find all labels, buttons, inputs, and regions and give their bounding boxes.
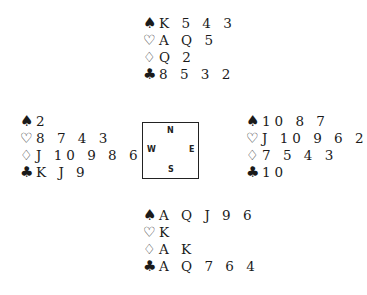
spade-icon: ♠ [20, 113, 36, 130]
diamond-icon: ♢ [20, 147, 36, 164]
north-hand: ♠ K 5 4 3 ♡ A Q 5 ♢ Q 2 ♣ 8 5 3 2 [143, 15, 236, 83]
club-icon: ♣ [246, 164, 262, 181]
north-diamonds-cards: Q 2 [159, 49, 195, 66]
west-spades-row: ♠ 2 [20, 113, 142, 130]
north-hearts-row: ♡ A Q 5 [143, 32, 236, 49]
east-spades-row: ♠ 10 8 7 [246, 113, 367, 130]
diamond-icon: ♢ [246, 147, 262, 164]
south-clubs-cards: A Q 7 6 4 [159, 258, 259, 275]
south-hearts-row: ♡ K [143, 224, 259, 241]
club-icon: ♣ [143, 258, 159, 275]
club-icon: ♣ [143, 66, 159, 83]
spade-icon: ♠ [246, 113, 262, 130]
south-hand: ♠ A Q J 9 6 ♡ K ♢ A K ♣ A Q 7 6 4 [143, 207, 259, 275]
heart-icon: ♡ [143, 224, 159, 241]
south-spades-cards: A Q J 9 6 [159, 207, 256, 224]
compass-west-label: W [147, 145, 156, 154]
west-clubs-cards: K J 9 [36, 164, 89, 181]
south-diamonds-cards: A K [159, 241, 195, 258]
east-diamonds-cards: 7 5 4 3 [262, 147, 337, 164]
south-spades-row: ♠ A Q J 9 6 [143, 207, 259, 224]
east-clubs-cards: 10 [262, 164, 287, 181]
heart-icon: ♡ [20, 130, 36, 147]
east-diamonds-row: ♢ 7 5 4 3 [246, 147, 367, 164]
west-clubs-row: ♣ K J 9 [20, 164, 142, 181]
north-clubs-cards: 8 5 3 2 [159, 66, 234, 83]
east-clubs-row: ♣ 10 [246, 164, 367, 181]
west-diamonds-row: ♢ J 10 9 8 6 [20, 147, 142, 164]
west-hearts-row: ♡ 8 7 4 3 [20, 130, 142, 147]
east-hearts-row: ♡ J 10 9 6 2 [246, 130, 367, 147]
compass-north-label: N [167, 126, 174, 135]
heart-icon: ♡ [143, 32, 159, 49]
spade-icon: ♠ [143, 207, 159, 224]
heart-icon: ♡ [246, 130, 262, 147]
club-icon: ♣ [20, 164, 36, 181]
north-clubs-row: ♣ 8 5 3 2 [143, 66, 236, 83]
east-spades-cards: 10 8 7 [262, 113, 329, 130]
east-hand: ♠ 10 8 7 ♡ J 10 9 6 2 ♢ 7 5 4 3 ♣ 10 [246, 113, 367, 181]
compass-south-label: S [168, 165, 174, 174]
south-clubs-row: ♣ A Q 7 6 4 [143, 258, 259, 275]
south-hearts-cards: K [159, 224, 173, 241]
west-spades-cards: 2 [36, 113, 49, 130]
east-hearts-cards: J 10 9 6 2 [262, 130, 367, 147]
compass-box: N W E S [142, 122, 199, 179]
diamond-icon: ♢ [143, 241, 159, 258]
north-diamonds-row: ♢ Q 2 [143, 49, 236, 66]
west-hand: ♠ 2 ♡ 8 7 4 3 ♢ J 10 9 8 6 ♣ K J 9 [20, 113, 142, 181]
north-hearts-cards: A Q 5 [159, 32, 217, 49]
north-spades-row: ♠ K 5 4 3 [143, 15, 236, 32]
west-hearts-cards: 8 7 4 3 [36, 130, 111, 147]
spade-icon: ♠ [143, 15, 159, 32]
north-spades-cards: K 5 4 3 [159, 15, 236, 32]
compass-east-label: E [189, 145, 194, 154]
diamond-icon: ♢ [143, 49, 159, 66]
west-diamonds-cards: J 10 9 8 6 [36, 147, 142, 164]
south-diamonds-row: ♢ A K [143, 241, 259, 258]
